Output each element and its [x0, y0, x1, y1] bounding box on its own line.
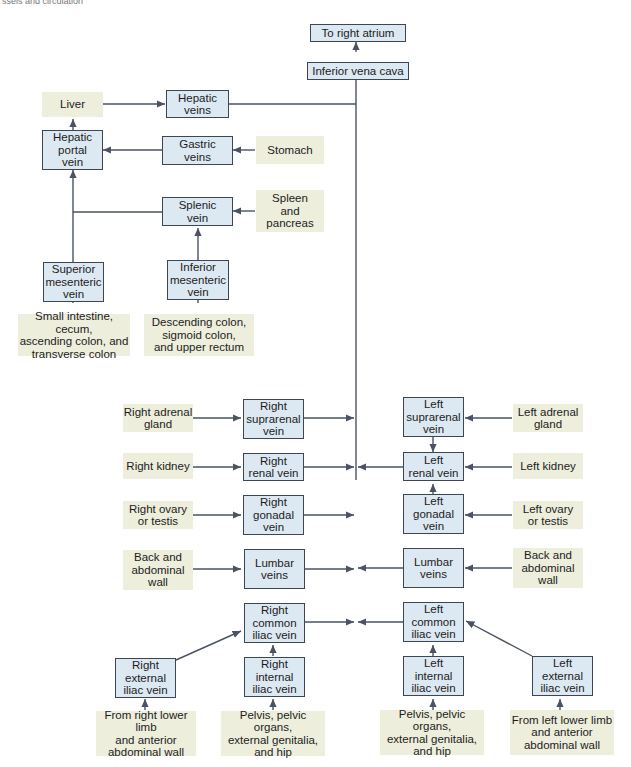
liver-box: Liver: [42, 92, 103, 117]
right-suprarenal-vein-box: Right suprarenal vein: [243, 399, 304, 439]
right-lower-limb-box: From right lower limb and anterior abdom…: [96, 711, 196, 756]
right-renal-vein-box: Right renal vein: [243, 453, 304, 481]
right-pelvis-box: Pelvis, pelvic organs, external genitali…: [221, 711, 325, 756]
inferior-mesenteric-vein-box: Inferior mesenteric vein: [167, 260, 229, 300]
left-pelvis-box: Pelvis, pelvic organs, external genitali…: [380, 710, 484, 755]
left-kidney-box: Left kidney: [513, 453, 583, 479]
right-adrenal-gland-box: Right adrenal gland: [123, 404, 193, 432]
right-atrium-box: To right atrium: [310, 24, 406, 42]
left-common-iliac-vein-box: Left common iliac vein: [403, 602, 464, 642]
inferior-vena-cava-box: Inferior vena cava: [307, 62, 409, 80]
right-kidney-box: Right kidney: [123, 453, 193, 479]
hepatic-portal-vein-box: Hepatic portal vein: [42, 130, 103, 170]
left-internal-iliac-vein-box: Left internal iliac vein: [403, 656, 464, 696]
right-back-abdominal-wall-box: Back and abdominal wall: [123, 550, 193, 590]
stomach-box: Stomach: [256, 136, 324, 164]
small-intestine-box: Small intestine, cecum, ascending colon,…: [18, 314, 130, 356]
left-ovary-testis-box: Left ovary or testis: [513, 501, 583, 529]
left-lower-limb-box: From left lower limb and anterior abdomi…: [510, 710, 614, 755]
right-ovary-testis-box: Right ovary or testis: [123, 501, 193, 529]
right-external-iliac-vein-box: Right external iliac vein: [115, 658, 176, 698]
gastric-veins-box: Gastric veins: [162, 136, 233, 165]
right-common-iliac-vein-box: Right common iliac vein: [244, 603, 305, 643]
right-internal-iliac-vein-box: Right internal iliac vein: [244, 657, 305, 697]
descending-colon-box: Descending colon, sigmoid colon, and upp…: [144, 314, 254, 356]
left-gonadal-vein-box: Left gonadal vein: [403, 494, 464, 534]
splenic-vein-box: Splenic vein: [162, 197, 233, 226]
left-external-iliac-vein-box: Left external iliac vein: [532, 656, 593, 696]
right-gonadal-vein-box: Right gonadal vein: [243, 495, 304, 535]
hepatic-veins-box: Hepatic veins: [166, 90, 229, 118]
superior-mesenteric-vein-box: Superior mesenteric vein: [43, 262, 104, 302]
left-renal-vein-box: Left renal vein: [403, 452, 464, 481]
left-lumbar-veins-box: Lumbar veins: [403, 548, 464, 588]
right-lumbar-veins-box: Lumbar veins: [244, 549, 305, 589]
left-adrenal-gland-box: Left adrenal gland: [513, 404, 583, 432]
left-suprarenal-vein-box: Left suprarenal vein: [403, 397, 464, 437]
left-back-abdominal-wall-box: Back and abdominal wall: [513, 548, 583, 588]
spleen-pancreas-box: Spleen and pancreas: [256, 190, 324, 232]
